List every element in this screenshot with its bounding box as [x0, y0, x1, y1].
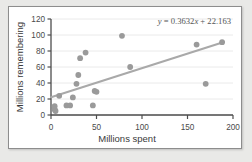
data-point — [77, 55, 83, 61]
y-axis-tick-labels: 020406080100120 — [31, 15, 45, 120]
data-point — [70, 95, 76, 101]
chart-card: 020406080100120 050100150200 y = 0.3632x… — [8, 6, 242, 149]
screenshot-frame: 020406080100120 050100150200 y = 0.3632x… — [0, 0, 252, 162]
trendline-equation-label: y = 0.3632x + 22.163 — [157, 16, 231, 26]
data-point — [75, 72, 81, 78]
data-points — [52, 33, 225, 114]
y-tick-label: 120 — [31, 15, 45, 24]
data-point — [127, 64, 133, 70]
x-axis-title: Millions spent — [98, 133, 156, 144]
y-tick-label: 0 — [40, 111, 45, 120]
y-axis-title: Millions remembering — [14, 22, 25, 112]
x-tick-label: 200 — [226, 123, 240, 132]
data-point — [219, 39, 225, 45]
x-tick-label: 50 — [92, 123, 102, 132]
gridlines — [51, 19, 233, 115]
x-tick-label: 100 — [135, 123, 149, 132]
data-point — [119, 33, 125, 39]
data-point — [56, 93, 62, 99]
y-tick-label: 60 — [36, 63, 46, 72]
data-point — [67, 103, 73, 109]
y-tick-label: 20 — [36, 95, 46, 104]
data-point — [74, 81, 80, 87]
y-tick-label: 40 — [36, 79, 46, 88]
x-tick-label: 150 — [181, 123, 195, 132]
x-tick-label: 0 — [49, 123, 54, 132]
scatter-chart: 020406080100120 050100150200 y = 0.3632x… — [9, 7, 241, 148]
data-point — [203, 81, 209, 87]
data-point — [83, 50, 89, 56]
data-point — [90, 103, 96, 109]
data-point — [194, 42, 200, 48]
data-point — [53, 108, 59, 114]
y-tick-label: 100 — [31, 31, 45, 40]
y-tick-label: 80 — [36, 47, 46, 56]
trendline — [51, 42, 224, 97]
x-axis-tick-labels: 050100150200 — [49, 123, 241, 132]
data-point — [94, 89, 100, 95]
